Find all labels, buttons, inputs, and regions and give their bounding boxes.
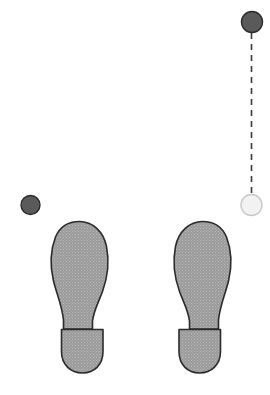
footprint-diagram — [0, 0, 270, 395]
figure-canvas — [0, 0, 270, 395]
dark-marker-left-icon[interactable] — [21, 196, 40, 215]
background — [0, 0, 270, 395]
right-footprint-heel — [179, 330, 221, 374]
dark-marker-top-right-icon[interactable] — [242, 12, 263, 33]
left-footprint-heel — [62, 330, 104, 374]
light-marker-right-icon[interactable] — [241, 195, 262, 216]
